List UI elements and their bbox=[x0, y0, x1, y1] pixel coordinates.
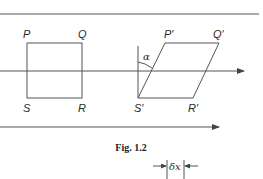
label-p-prime: P′ bbox=[164, 28, 174, 40]
label-r: R bbox=[78, 102, 86, 114]
label-p: P bbox=[23, 28, 31, 40]
label-s: S bbox=[23, 102, 31, 114]
label-s-prime: S′ bbox=[134, 102, 144, 114]
label-alpha: α bbox=[143, 51, 150, 62]
figure-caption: Fig. 1.2 bbox=[115, 142, 146, 153]
shear-diagram: P Q S R P′ Q′ S′ R′ α δx Fig. 1.2 bbox=[0, 0, 263, 179]
label-q-prime: Q′ bbox=[213, 28, 225, 40]
label-delta-x: δx bbox=[169, 161, 181, 172]
label-r-prime: R′ bbox=[188, 102, 199, 114]
alpha-arc bbox=[138, 62, 152, 68]
label-q: Q bbox=[78, 28, 87, 40]
